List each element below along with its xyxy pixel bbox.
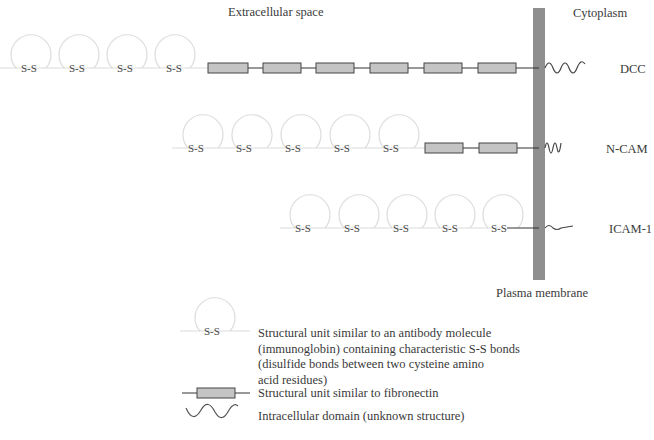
molecule-icam1	[280, 195, 573, 230]
legend-fibronectin-icon	[182, 388, 250, 398]
ss-bond-label: S-S	[393, 223, 409, 234]
molecule-label-icam1: ICAM-1	[609, 223, 652, 236]
membrane-label: Plasma membrane	[496, 287, 588, 300]
molecule-ncam	[172, 115, 561, 153]
legend-intracellular-text: Intracellular domain (unknown structure)	[258, 409, 465, 425]
legend-intracellular-icon	[186, 404, 238, 417]
plasma-membrane	[533, 8, 545, 280]
ss-bond-label: S-S	[295, 223, 311, 234]
ss-bond-label: S-S	[344, 223, 360, 234]
molecule-label-dcc: DCC	[620, 63, 646, 76]
legend-ss-label: S-S	[204, 326, 220, 337]
ss-bond-label: S-S	[442, 223, 458, 234]
ss-bond-label: S-S	[166, 63, 182, 74]
legend-fibronectin-text: Structural unit similar to fibronectin	[258, 386, 439, 402]
legend-ig-text: Structural unit similar to an antibody m…	[258, 326, 520, 388]
ss-bond-label: S-S	[285, 143, 301, 154]
ss-bond-label: S-S	[21, 63, 37, 74]
extracellular-label: Extracellular space	[228, 6, 323, 19]
ss-bond-label: S-S	[383, 143, 399, 154]
ss-bond-label: S-S	[117, 63, 133, 74]
ss-bond-label: S-S	[236, 143, 252, 154]
cytoplasm-label: Cytoplasm	[573, 7, 627, 20]
intracellular-domain-icon	[545, 62, 585, 73]
ss-bond-label: S-S	[188, 143, 204, 154]
ss-bond-label: S-S	[69, 63, 85, 74]
ss-bond-label: S-S	[334, 143, 350, 154]
ss-bond-label: S-S	[491, 223, 507, 234]
molecule-label-ncam: N-CAM	[606, 143, 648, 156]
molecule-dcc	[0, 35, 585, 73]
